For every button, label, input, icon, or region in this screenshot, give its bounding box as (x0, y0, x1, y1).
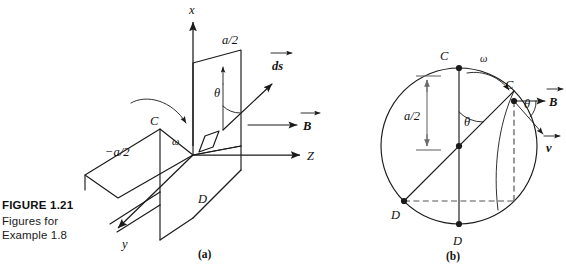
figure-caption-line-1: Figures for (2, 214, 112, 229)
panel-b-diagram: θ a/2 ω B v θ (381, 49, 563, 263)
z-axis-label: Z (307, 149, 315, 163)
label-D-bottom-b: D (452, 234, 462, 248)
subcaption-b: (b) (446, 250, 460, 263)
label-neg-a-over-2: −a/2 (105, 145, 129, 159)
rotation-arc-a (131, 99, 186, 123)
ds-vector-arrow (223, 84, 272, 130)
theta-label-center-b: θ (464, 115, 470, 129)
lead-wire-upper (110, 192, 160, 224)
velocity-label-b: v (546, 141, 552, 155)
label-C-top-b: C (440, 49, 449, 63)
node-D-bottom (456, 221, 462, 227)
panel-a-diagram: x Z y a/2 ds θ B (85, 3, 320, 261)
node-C-top (456, 65, 462, 71)
ds-area-element (199, 131, 219, 152)
label-C-a: C (150, 114, 159, 128)
figure-caption-title: FIGURE 1.21 (2, 198, 112, 213)
label-D-a: D (197, 192, 207, 206)
figure-container: FIGURE 1.21 Figures for Example 1.8 x Z (0, 0, 566, 266)
ds-vector-label: ds (272, 59, 283, 73)
b-field-label-b: B (548, 95, 557, 109)
loop-edge-arc (496, 91, 514, 210)
b-field-label-a: B (302, 119, 311, 133)
theta-arc-a (223, 106, 240, 113)
node-center (456, 143, 462, 149)
label-D-left-b: D (390, 208, 400, 222)
theta-label-a: θ (214, 86, 220, 100)
figure-caption-line-2: Example 1.8 (2, 228, 112, 243)
theta-label-right-b: θ (524, 97, 530, 111)
field-plane-rectangle (193, 50, 241, 155)
x-axis-label: x (188, 3, 195, 17)
node-D-left (401, 198, 407, 204)
omega-label-b: ω (480, 53, 487, 64)
label-a-over-2-a: a/2 (222, 33, 238, 47)
theta-arc-center-b (459, 112, 483, 122)
subcaption-a: (a) (198, 248, 212, 261)
lead-wire-lower (117, 205, 160, 232)
node-C-right (511, 98, 517, 104)
figure-caption: FIGURE 1.21 Figures for Example 1.8 (2, 198, 112, 243)
loop-bottom-edge (160, 218, 193, 240)
label-a-over-2-b: a/2 (404, 109, 420, 123)
label-C-right-b: C (505, 78, 514, 92)
y-axis-label: y (120, 237, 128, 251)
